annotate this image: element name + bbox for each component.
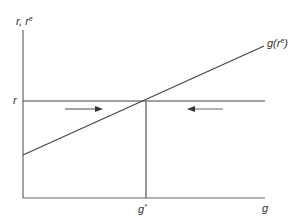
diagram-canvas <box>0 0 307 221</box>
curve-label-prefix: g(r <box>267 37 280 49</box>
right-arrow-icon <box>65 106 103 112</box>
r-level-label-text: r <box>13 94 17 106</box>
curve-label: g(re) <box>267 37 288 49</box>
y-axis-label-base: r, r <box>16 15 29 27</box>
y-axis-label: r, re <box>16 15 33 27</box>
curve-label-suffix: ) <box>284 37 288 49</box>
equilibrium-label-sup: * <box>144 203 147 210</box>
x-axis-label: g <box>262 203 268 214</box>
equilibrium-label: g* <box>138 203 147 215</box>
r-level-label: r <box>13 95 17 106</box>
x-axis-label-text: g <box>262 202 268 214</box>
left-arrow-icon <box>187 106 223 112</box>
y-axis-label-sup: e <box>29 15 33 22</box>
